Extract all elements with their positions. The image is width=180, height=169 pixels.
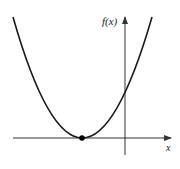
- parabola-curve: [13, 17, 152, 138]
- x-axis-label: x: [165, 142, 171, 153]
- parabola-graph: f(x) x: [0, 0, 180, 169]
- vertex-point: [79, 135, 85, 141]
- y-axis-label: f(x): [102, 15, 118, 28]
